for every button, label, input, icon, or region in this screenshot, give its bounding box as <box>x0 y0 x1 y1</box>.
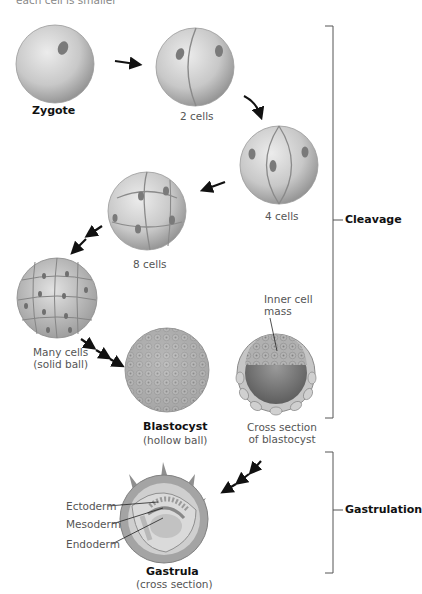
arrow-icon <box>110 359 119 364</box>
four-cells-label: 4 cells <box>265 210 299 222</box>
blastocyst-label: Blastocyst <box>143 421 207 433</box>
arrow-icon <box>226 484 236 490</box>
two-cells-label: 2 cells <box>180 110 214 122</box>
arrow-icon <box>90 226 102 234</box>
mesoderm-label: Mesoderm <box>66 518 121 530</box>
arrow-icon <box>75 239 86 250</box>
eight-cells-label: 8 cells <box>133 258 167 270</box>
arrow-icon <box>115 61 136 64</box>
arrow-icon <box>206 182 225 189</box>
arrow-icon <box>81 339 91 346</box>
arrow-icon <box>240 474 249 481</box>
blastocyst-sublabel: (hollow ball) <box>143 434 207 446</box>
blastocyst-cross-section <box>236 318 316 415</box>
morula-embryo <box>17 258 97 338</box>
gastrula-label: Gastrula <box>146 566 199 578</box>
cross-section-label: Cross section of blastocyst <box>247 421 317 445</box>
gastrula-cross-section <box>120 462 208 563</box>
ectoderm-label: Ectoderm <box>66 500 116 512</box>
cleavage-stage-label: Cleavage <box>345 213 402 226</box>
endoderm-label: Endoderm <box>66 538 120 550</box>
many-cells-label: Many cells (solid ball) <box>33 346 88 370</box>
gastrulation-stage-label: Gastrulation <box>345 503 422 516</box>
four-cell-embryo <box>240 126 318 204</box>
zygote-label: Zygote <box>32 105 75 117</box>
zygote-cell <box>16 25 94 103</box>
eight-cell-embryo <box>108 172 186 250</box>
inner-cell-mass-label: Inner cell mass <box>264 293 313 317</box>
gastrula-sublabel: (cross section) <box>136 578 213 590</box>
gastrulation-bracket <box>325 452 343 573</box>
arrow-icon <box>253 461 261 470</box>
cleavage-bracket <box>325 26 343 418</box>
arrow-icon <box>244 96 260 114</box>
two-cell-embryo <box>156 28 234 106</box>
blastocyst-embryo <box>125 328 209 412</box>
arrow-icon <box>96 350 106 356</box>
